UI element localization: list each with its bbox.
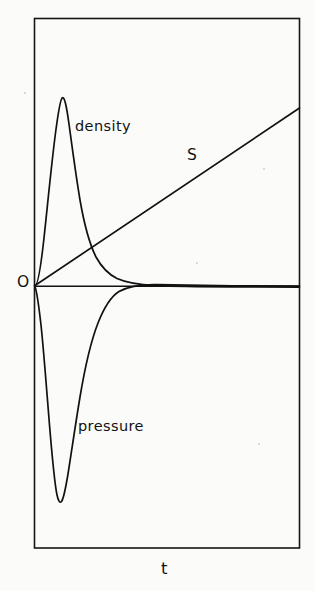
scan-speck [258, 443, 260, 445]
curve-entropy-s [35, 108, 300, 286]
curve-label-pressure: pressure [78, 419, 144, 434]
curve-label-entropy: S [187, 148, 197, 164]
scan-speck [24, 92, 26, 94]
scan-speck [196, 262, 198, 264]
curve-pressure [35, 285, 300, 503]
origin-label: O [17, 275, 29, 291]
plot-frame [35, 19, 300, 549]
figure-root: density pressure S O t [0, 0, 315, 591]
x-axis-label: t [161, 561, 167, 578]
plot-canvas [0, 0, 315, 591]
scan-speck [263, 168, 265, 170]
curve-label-density: density [75, 119, 131, 134]
